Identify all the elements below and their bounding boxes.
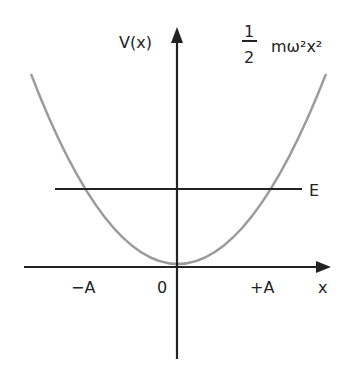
x-axis-arrow-icon	[316, 261, 331, 273]
x-tick-plus-a: +A	[250, 278, 274, 297]
energy-label: E	[309, 181, 319, 200]
x-tick-minus-a: −A	[71, 278, 95, 297]
harmonic-oscillator-diagram: V(x) 1 2 mω²x² E −A 0 +A x	[0, 0, 349, 378]
x-tick-origin: 0	[157, 278, 167, 297]
formula-expression: mω²x²	[271, 37, 322, 56]
y-axis-arrow-icon	[171, 27, 183, 43]
y-axis-label: V(x)	[119, 33, 152, 52]
formula-numerator: 1	[244, 22, 254, 41]
formula-denominator: 2	[244, 48, 254, 67]
x-axis-label: x	[318, 278, 327, 297]
potential-curve	[31, 74, 326, 264]
